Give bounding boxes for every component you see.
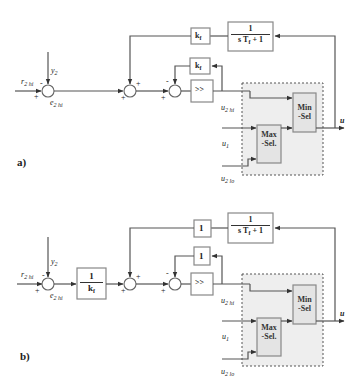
diagram-a bbox=[15, 22, 344, 175]
sum1-minus-sign: - bbox=[42, 272, 45, 280]
measurement-label: y2 bbox=[51, 258, 58, 267]
u2hi-label: u2 hi bbox=[221, 297, 234, 306]
u1-label: u1 bbox=[222, 140, 229, 149]
measurement-label: y2 bbox=[51, 67, 58, 76]
sum2-plus-top: + bbox=[136, 273, 141, 281]
min-select-label: Min-Sel bbox=[293, 103, 316, 121]
sum2-plus-left: + bbox=[121, 94, 126, 102]
pre-gain-numerator: 1 bbox=[89, 271, 94, 281]
filter-transfer-function: 1 s Tf + 1 bbox=[228, 216, 273, 236]
sum3-plus-left: + bbox=[161, 287, 166, 295]
min-select-label: Min-Sel bbox=[293, 295, 316, 313]
max-select-label: Max-Sel. bbox=[257, 130, 281, 148]
error-label: e2 hi bbox=[50, 292, 63, 301]
reference-label: r2 hi bbox=[21, 271, 33, 280]
sum1-plus-sign: + bbox=[35, 287, 40, 295]
filter-denominator: s Tf + 1 bbox=[238, 35, 263, 44]
outer-gain-label: kf bbox=[195, 32, 201, 41]
inner-gain-label: kf bbox=[195, 62, 201, 71]
u2lo-label: u2 lo bbox=[221, 175, 234, 184]
sum3-plus-left: + bbox=[161, 94, 166, 102]
filter-numerator: 1 bbox=[249, 24, 253, 33]
u1-label: u1 bbox=[222, 333, 229, 342]
sum1-minus-sign: - bbox=[40, 80, 43, 88]
controller-label: >> bbox=[195, 279, 204, 287]
sum3-minus-top: - bbox=[166, 78, 169, 86]
sum2-plus-top: + bbox=[136, 80, 141, 88]
filter-denominator: s Tf + 1 bbox=[238, 226, 263, 235]
u2lo-label: u2 lo bbox=[221, 368, 234, 377]
diagram-b-caption: b) bbox=[20, 351, 30, 362]
pre-gain-denominator: kf bbox=[88, 283, 95, 293]
diagram-a-caption: a) bbox=[17, 157, 26, 168]
sum-junction-3 bbox=[169, 278, 181, 290]
pre-gain-transfer-function: 1 kf bbox=[77, 272, 106, 294]
sum-junction-3 bbox=[169, 85, 181, 97]
outer-gain-label: 1 bbox=[199, 224, 204, 234]
sum1-plus-sign: + bbox=[34, 93, 39, 101]
u2hi-label: u2 hi bbox=[221, 104, 234, 113]
diagram-b bbox=[17, 213, 344, 366]
sum-junction-1 bbox=[42, 85, 54, 97]
error-label: e2 hi bbox=[50, 99, 63, 108]
sum2-plus-left: + bbox=[121, 287, 126, 295]
reference-label: r2 hi bbox=[21, 78, 33, 87]
filter-numerator: 1 bbox=[249, 215, 253, 224]
output-label: u bbox=[340, 117, 344, 125]
max-select-label: Max-Sel. bbox=[257, 323, 281, 341]
filter-transfer-function: 1 s Tf + 1 bbox=[228, 25, 273, 45]
output-label: u bbox=[340, 310, 344, 318]
sum3-minus-top: - bbox=[166, 270, 169, 278]
controller-label: >> bbox=[195, 86, 204, 94]
inner-gain-label: 1 bbox=[199, 252, 204, 262]
